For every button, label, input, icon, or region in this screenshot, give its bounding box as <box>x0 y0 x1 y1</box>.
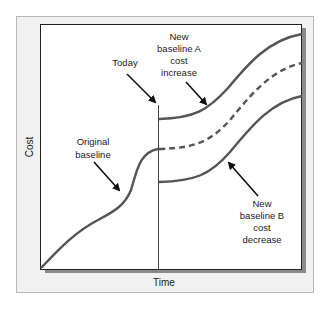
original-baseline-label-2: baseline <box>75 149 110 160</box>
baseline-a-label-4: increase <box>161 67 197 78</box>
original-baseline-label-1: Original <box>77 136 110 147</box>
baseline-b-label-1: New <box>252 198 271 209</box>
x-axis-label: Time <box>153 277 175 288</box>
today-label: Today <box>112 57 138 68</box>
baseline-a-label-3: cost <box>170 55 188 66</box>
baseline-a-label-1: New <box>169 31 188 42</box>
baseline-b-label-3: cost <box>253 222 271 233</box>
baseline-a-label-2: baseline A <box>157 43 202 54</box>
baseline-chart: Original baseline Today New baseline A c… <box>0 0 331 310</box>
y-axis-label: Cost <box>24 136 35 157</box>
baseline-b-label-2: baseline B <box>240 210 284 221</box>
baseline-b-label-4: decrease <box>242 234 281 245</box>
